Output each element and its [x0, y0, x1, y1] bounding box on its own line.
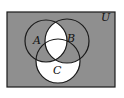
set-c-label: C — [53, 64, 62, 77]
set-a-label: A — [32, 34, 41, 47]
set-b-label: B — [66, 32, 75, 45]
venn-diagram: U A B C — [0, 0, 124, 98]
universe-label: U — [101, 11, 111, 24]
